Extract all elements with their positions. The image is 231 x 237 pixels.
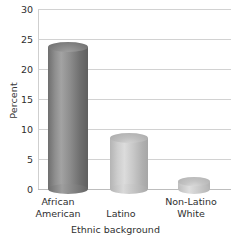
bar-latino [110,133,148,189]
bar-base-ellipse-latino [110,184,148,194]
y-tick-label-25: 25 [3,35,33,45]
y-tick-label-10: 10 [3,125,33,135]
bar-top-ellipse-african-american [48,42,88,52]
bar-african-american [48,42,88,189]
x-tick-label-latino: Latino [95,208,147,220]
y-tick-label-20: 20 [3,65,33,75]
x-tick-label-non-latino-white: Non-Latino White [155,196,227,219]
y-tick-label-15: 15 [3,95,33,105]
gridline-25 [38,39,231,40]
bar-body-latino [110,138,148,189]
y-tick-label-30: 30 [3,5,33,15]
x-tick-label-african-american: African American [28,196,88,219]
y-tick-label-0: 0 [3,185,33,195]
bar-body-african-american [48,47,88,189]
bar-non-latino-white [178,177,210,189]
bar-top-ellipse-latino [110,133,148,143]
gridline-30 [38,9,231,10]
bar-base-ellipse-african-american [48,184,88,194]
x-axis-title: Ethnic background [0,224,231,235]
bar-top-ellipse-non-latino-white [178,177,210,186]
y-axis-line [38,10,39,190]
bar-chart: Percent 30 25 20 15 10 5 0 [0,0,231,237]
y-tick-label-5: 5 [3,155,33,165]
